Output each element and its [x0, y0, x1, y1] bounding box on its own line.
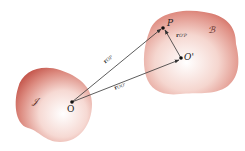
point-oprime [179, 56, 183, 60]
label-left-body: 𝒥 [32, 96, 38, 107]
point-p [161, 26, 165, 30]
label-o: O [67, 104, 74, 114]
diagram-canvas [0, 0, 245, 151]
label-oprime: O' [184, 52, 194, 62]
left-body-shape [16, 68, 92, 142]
vector-subscript: O'P [179, 33, 187, 38]
label-p: P [167, 18, 173, 28]
label-right-body: ℬ [208, 25, 215, 35]
label-r-oprimep: rO'P [176, 32, 187, 38]
